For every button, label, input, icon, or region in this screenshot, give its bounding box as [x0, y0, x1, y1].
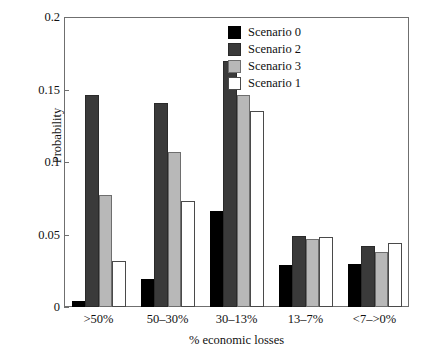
x-tick-label: >50% [84, 312, 114, 327]
bar [154, 103, 168, 307]
bar [99, 195, 113, 307]
bar [168, 152, 182, 307]
x-axis-title: % economic losses [64, 333, 409, 348]
bars-layer [0, 0, 424, 362]
bar [237, 95, 251, 307]
legend-swatch-icon [228, 26, 241, 39]
legend-label: Scenario 0 [248, 25, 301, 40]
bar [210, 211, 224, 307]
legend-item: Scenario 3 [228, 58, 348, 75]
x-axis-tick-labels: >50%50–30%30–13%13–7%<7–>0% [64, 312, 409, 332]
bar [181, 201, 195, 307]
legend-label: Scenario 1 [248, 76, 301, 91]
legend: Scenario 0Scenario 2Scenario 3Scenario 1 [228, 24, 348, 92]
legend-item: Scenario 2 [228, 41, 348, 58]
bar [112, 261, 126, 307]
legend-swatch-icon [228, 77, 241, 90]
bar [85, 95, 99, 307]
legend-label: Scenario 2 [248, 42, 301, 57]
bar [375, 252, 389, 307]
bar [361, 246, 375, 307]
bar [292, 236, 306, 307]
bar [223, 61, 237, 308]
legend-label: Scenario 3 [248, 59, 301, 74]
bar [306, 239, 320, 307]
legend-item: Scenario 1 [228, 75, 348, 92]
x-tick-label: 13–7% [288, 312, 323, 327]
bar [72, 301, 86, 307]
bar [319, 237, 333, 307]
legend-swatch-icon [228, 60, 241, 73]
x-tick-label: <7–>0% [353, 312, 396, 327]
x-tick-label: 30–13% [216, 312, 258, 327]
legend-swatch-icon [228, 43, 241, 56]
legend-item: Scenario 0 [228, 24, 348, 41]
bar-chart-figure: 00.050.10.150.2 Probability >50%50–30%30… [0, 0, 424, 362]
bar [141, 279, 155, 307]
x-tick-label: 50–30% [147, 312, 189, 327]
bar [388, 243, 402, 307]
bar [279, 265, 293, 307]
bar [250, 111, 264, 307]
bar [348, 264, 362, 308]
